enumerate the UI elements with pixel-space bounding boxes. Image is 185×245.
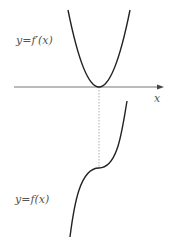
x-axis-label: x <box>154 93 160 104</box>
derivative-label: y=f′(x) <box>16 35 53 46</box>
x-axis-arrowhead-icon <box>157 85 164 90</box>
derivative-parabola-curve <box>68 10 130 87</box>
function-cubic-curve <box>70 101 127 237</box>
function-label: y=f(x) <box>15 194 49 205</box>
